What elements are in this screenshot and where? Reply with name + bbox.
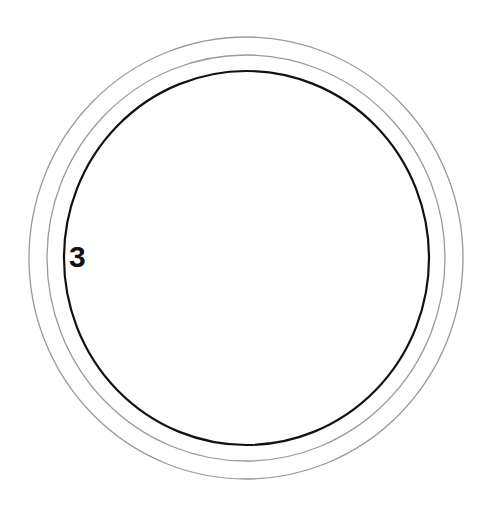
outer-ring [29, 37, 463, 479]
inner-ring [64, 71, 429, 445]
middle-ring [47, 55, 445, 461]
ring-label: 3 [69, 242, 86, 272]
